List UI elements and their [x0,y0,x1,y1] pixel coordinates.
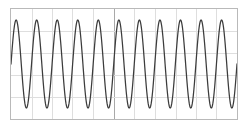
plot-frame [10,8,238,120]
waveform-trace [11,20,237,108]
waveform-layer [11,9,237,119]
oscilloscope-figure [0,0,250,131]
